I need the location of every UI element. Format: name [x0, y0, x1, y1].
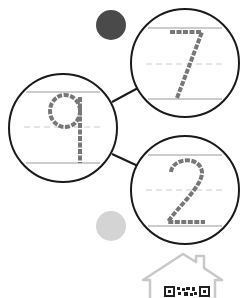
- digit-circle-2: [131, 136, 239, 244]
- house-qr-icon: [143, 254, 222, 298]
- digit-circle-9: [9, 74, 117, 182]
- connector-line-9-7: [112, 88, 138, 102]
- light-dot: [96, 211, 126, 241]
- dark-dot: [96, 10, 126, 40]
- digit-circle-7: [131, 9, 239, 117]
- qr-code: [165, 287, 209, 296]
- connector-line-9-2: [112, 154, 138, 166]
- number-worksheet: [0, 0, 251, 298]
